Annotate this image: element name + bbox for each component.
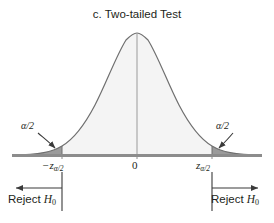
alpha-over-2-label-left: α/2 xyxy=(21,121,34,131)
two-tailed-test-figure: c. Two-tailed Test xyxy=(0,0,274,223)
tick-label-negative-z-main: −z xyxy=(42,159,54,171)
reject-h0-label-left-text: Reject xyxy=(8,193,44,205)
tick-label-positive-z: zα/2 xyxy=(196,160,210,173)
tick-label-zero: 0 xyxy=(132,160,138,171)
tick-label-negative-z: −zα/2 xyxy=(42,160,64,173)
reject-h0-label-right-subscript: 0 xyxy=(255,198,259,207)
normal-curve-chart xyxy=(0,0,274,223)
reject-h0-label-right: Reject H0 xyxy=(211,194,259,207)
tick-label-negative-z-subscript: α/2 xyxy=(54,164,64,173)
alpha-over-2-label-right: α/2 xyxy=(216,121,229,131)
reject-h0-label-left-subscript: 0 xyxy=(52,198,56,207)
reject-h0-label-left: Reject H0 xyxy=(8,194,56,207)
reject-h0-label-left-h: H xyxy=(44,193,52,205)
tick-label-positive-z-subscript: α/2 xyxy=(200,164,210,173)
reject-h0-label-right-h: H xyxy=(247,193,255,205)
reject-h0-label-right-text: Reject xyxy=(211,193,247,205)
right-alpha-arrow xyxy=(219,133,233,148)
left-alpha-arrow xyxy=(38,133,55,148)
